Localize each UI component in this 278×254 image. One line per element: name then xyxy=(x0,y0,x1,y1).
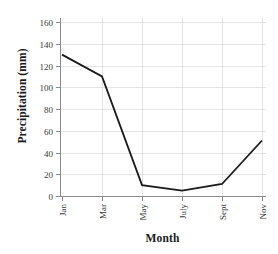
precipitation-line-chart: Precipitation (mm) 020406080100120140160… xyxy=(0,0,278,254)
x-axis-tick-labels: JanMarMayJulySeptNov xyxy=(58,204,268,221)
y-tick-label: 100 xyxy=(40,83,54,93)
x-tick-label: May xyxy=(138,204,148,221)
y-tick-label: 0 xyxy=(49,192,54,202)
x-tick-label: Jan xyxy=(58,204,68,216)
x-tick-label: July xyxy=(178,204,188,220)
y-tick-label: 20 xyxy=(44,170,54,180)
x-axis-tickmarks xyxy=(63,197,263,201)
y-tick-label: 60 xyxy=(44,127,54,137)
y-tick-label: 160 xyxy=(40,18,54,28)
horizontal-gridlines xyxy=(61,23,266,175)
precipitation-data-line xyxy=(62,55,262,191)
y-axis-tick-labels: 020406080100120140160 xyxy=(40,18,54,202)
y-axis-tickmarks xyxy=(56,23,60,197)
x-tick-label: Nov xyxy=(258,204,268,220)
plot-area: 020406080100120140160 JanMarMayJulySeptN… xyxy=(0,0,278,254)
y-tick-label: 140 xyxy=(40,40,54,50)
y-tick-label: 120 xyxy=(40,62,54,72)
x-tick-label: Sept xyxy=(218,204,228,221)
y-tick-label: 40 xyxy=(44,149,54,159)
y-tick-label: 80 xyxy=(44,105,54,115)
x-tick-label: Mar xyxy=(98,204,108,219)
x-axis-title: Month xyxy=(60,232,265,244)
